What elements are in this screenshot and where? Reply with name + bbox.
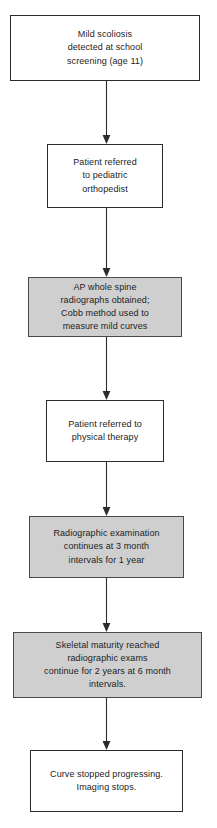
skeletal-maturity-reached: Skeletal maturity reached radiographic e… [13,632,202,698]
arrow-icon [100,578,113,632]
mild-scoliosis-detected: Mild scoliosis detected at school screen… [10,15,200,81]
arrow-icon [100,698,113,750]
arrow-icon [100,208,113,277]
patient-referred-orthopedist-label: Patient referred to pediatric orthopedis… [51,156,159,196]
arrow-icon [100,462,113,516]
patient-referred-physical-therapy: Patient referred to physical therapy [46,400,164,462]
ap-whole-spine-radiographs-label: AP whole spine radiographs obtained; Cob… [32,281,178,334]
mild-scoliosis-detected-label: Mild scoliosis detected at school screen… [14,28,196,68]
patient-referred-physical-therapy-label: Patient referred to physical therapy [50,418,160,444]
arrow-node2-to-node3 [100,208,113,277]
flowchart-diagram: Mild scoliosis detected at school screen… [0,0,217,828]
skeletal-maturity-reached-label: Skeletal maturity reached radiographic e… [17,639,198,692]
curve-stopped-progressing-label: Curve stopped progressing. Imaging stops… [34,768,179,794]
arrow-icon [100,81,113,144]
arrow-node5-to-node6 [100,578,113,632]
radiographic-exam-3-month-intervals: Radiographic examination continues at 3 … [29,516,184,578]
arrow-node6-to-node7 [100,698,113,750]
curve-stopped-progressing: Curve stopped progressing. Imaging stops… [30,750,183,812]
patient-referred-orthopedist: Patient referred to pediatric orthopedis… [47,144,163,208]
arrow-node4-to-node5 [100,462,113,516]
ap-whole-spine-radiographs: AP whole spine radiographs obtained; Cob… [28,277,182,337]
arrow-icon [100,337,113,400]
radiographic-exam-3-month-intervals-label: Radiographic examination continues at 3 … [33,527,180,567]
arrow-node3-to-node4 [100,337,113,400]
arrow-node1-to-node2 [100,81,113,144]
